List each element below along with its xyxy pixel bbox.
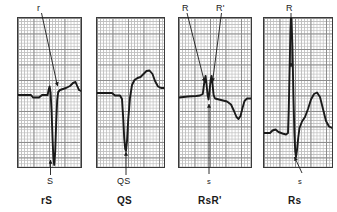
- caption-qs: QS: [117, 196, 132, 206]
- ecg-morphology-figure: r R R' R S QS s s rS QS RsR' Rs: [0, 0, 337, 212]
- label-r-panel3: R: [182, 4, 189, 13]
- label-r-panel4: R: [286, 4, 293, 13]
- panel-rs: [17, 17, 82, 168]
- panel-rsrprime: [178, 17, 252, 168]
- label-qs-panel2: QS: [117, 177, 130, 186]
- label-rprime-panel3: R': [216, 4, 225, 13]
- panel-rs2: [263, 17, 333, 168]
- label-s-panel1: S: [47, 177, 53, 186]
- label-r-panel1: r: [37, 4, 40, 13]
- caption-rs2: Rs: [288, 196, 301, 206]
- label-s-panel4: s: [298, 178, 302, 186]
- caption-rs: rS: [41, 196, 52, 206]
- label-s-panel3: s: [207, 178, 211, 186]
- caption-rsrprime: RsR': [198, 196, 222, 206]
- panel-qs: [96, 17, 165, 168]
